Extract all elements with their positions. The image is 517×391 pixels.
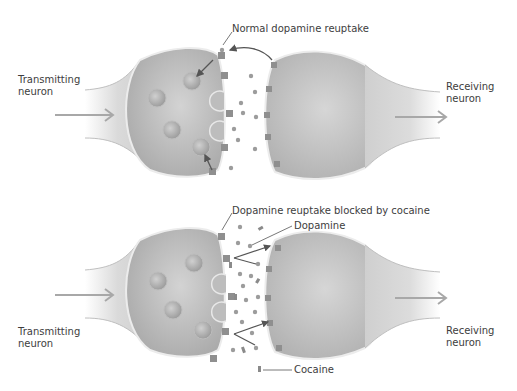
reuptake-arrow [230,48,272,60]
panel-cocaine-blocked [55,213,446,372]
receiving-neuron-label-top: Receiving neuron [446,81,494,105]
transmitting-neuron-label-top: Transmitting neuron [18,74,80,98]
presynaptic-terminal [126,48,225,177]
presynaptic-terminal [126,228,225,357]
normal-reuptake-label: Normal dopamine reuptake [232,23,369,35]
transmitting-neuron-label-bottom: Transmitting neuron [18,326,80,350]
blocked-reuptake-label: Dopamine reuptake blocked by cocaine [232,205,430,217]
panel-normal-reuptake [55,32,446,179]
dopamine-label: Dopamine [294,220,345,232]
cocaine-label: Cocaine [294,364,334,376]
annotation-leader [223,32,232,45]
receiving-axon [365,245,440,348]
receiving-neuron-label-bottom: Receiving neuron [446,325,494,349]
annotation-leader [222,213,232,230]
